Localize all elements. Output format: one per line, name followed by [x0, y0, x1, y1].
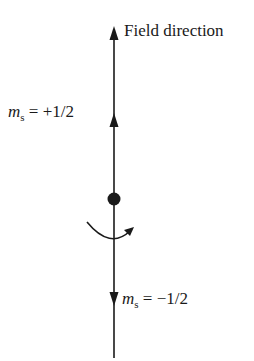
spin-down-subscript: s: [134, 298, 138, 310]
spin-up-symbol: m: [8, 102, 20, 121]
field-direction-label: Field direction: [124, 21, 224, 41]
electron-dot-icon: [108, 193, 121, 206]
spin-rotation-arc: [87, 222, 130, 239]
spin-up-subscript: s: [20, 111, 24, 123]
spin-down-label: ms = −1/2: [122, 289, 188, 309]
spin-diagram: Field direction ms = +1/2 ms = −1/2: [0, 0, 254, 361]
spin-down-value: −1/2: [157, 289, 188, 308]
field-direction-arrow-icon: [110, 26, 119, 40]
spin-up-label: ms = +1/2: [8, 102, 74, 122]
spin-up-equals: =: [25, 102, 43, 121]
spin-down-arrow-icon: [110, 292, 119, 306]
spin-up-arrow-icon: [110, 113, 119, 127]
spin-down-equals: =: [139, 289, 157, 308]
spin-up-value: +1/2: [43, 102, 74, 121]
spin-down-symbol: m: [122, 289, 134, 308]
